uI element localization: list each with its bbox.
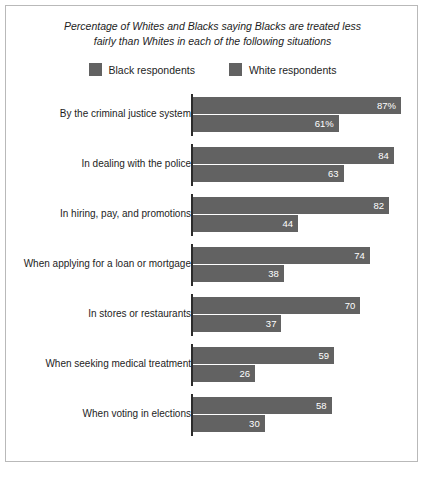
bar[interactable]: 30 (193, 415, 265, 432)
bar-value-label: 87% (377, 101, 396, 111)
bar-group: When voting in elections5830 (6, 394, 418, 444)
bar-group: In stores or restaurants7037 (6, 294, 418, 344)
chart-title-line-2: fairly than Whites in each of the follow… (24, 34, 401, 49)
bar-value-label: 61% (315, 119, 334, 129)
bar-value-label: 30 (249, 419, 260, 429)
bar[interactable]: 82 (193, 197, 389, 214)
bar-value-label: 63 (328, 169, 339, 179)
category-label: When voting in elections (15, 408, 191, 420)
legend-swatch-icon (229, 63, 242, 76)
bar-value-label: 74 (354, 251, 365, 261)
bar[interactable]: 26 (193, 365, 255, 382)
bar-value-label: 26 (240, 369, 251, 379)
bar[interactable]: 74 (193, 247, 370, 264)
legend-label: White respondents (249, 64, 337, 76)
legend-swatch-icon (89, 63, 102, 76)
bar-pair: 7037 (193, 297, 360, 333)
legend-label: Black respondents (109, 64, 195, 76)
chart-frame: Percentage of Whites and Blacks saying B… (5, 5, 418, 462)
category-label: In hiring, pay, and promotions (15, 208, 191, 220)
bar-pair: 8244 (193, 197, 389, 233)
bar[interactable]: 38 (193, 265, 284, 282)
legend-item-black-respondents: Black respondents (89, 63, 195, 76)
bar-group: When seeking medical treatment5926 (6, 344, 418, 394)
bar[interactable]: 37 (193, 315, 281, 332)
category-label: When seeking medical treatment (15, 358, 191, 370)
bar-value-label: 37 (266, 319, 277, 329)
bar[interactable]: 59 (193, 347, 334, 364)
category-label: In stores or restaurants (15, 308, 191, 320)
bar[interactable]: 87% (193, 97, 401, 114)
bar-value-label: 70 (345, 301, 356, 311)
bar[interactable]: 70 (193, 297, 360, 314)
category-label: In dealing with the police (15, 158, 191, 170)
bar-pair: 87%61% (193, 97, 401, 133)
bar-value-label: 84 (378, 151, 389, 161)
bar-value-label: 59 (318, 351, 329, 361)
bar-pair: 7438 (193, 247, 370, 283)
chart-title: Percentage of Whites and Blacks saying B… (24, 19, 401, 49)
bar-group: When applying for a loan or mortgage7438 (6, 244, 418, 294)
bar-group: In dealing with the police8463 (6, 144, 418, 194)
bar[interactable]: 84 (193, 147, 394, 164)
category-label: When applying for a loan or mortgage (15, 258, 191, 270)
bar-value-label: 82 (373, 201, 384, 211)
bar-value-label: 58 (316, 401, 327, 411)
bar-value-label: 38 (268, 269, 279, 279)
bar-group: In hiring, pay, and promotions8244 (6, 194, 418, 244)
bar-pair: 5926 (193, 347, 334, 383)
bar-pair: 5830 (193, 397, 332, 433)
category-label: By the criminal justice system (15, 108, 191, 120)
chart-title-line-1: Percentage of Whites and Blacks saying B… (24, 19, 401, 34)
bar[interactable]: 61% (193, 115, 339, 132)
bar[interactable]: 44 (193, 215, 298, 232)
legend-item-white-respondents: White respondents (229, 63, 337, 76)
bar-pair: 8463 (193, 147, 394, 183)
bar[interactable]: 63 (193, 165, 344, 182)
bar-value-label: 44 (283, 219, 294, 229)
plot-area: By the criminal justice system87%61%In d… (6, 94, 418, 454)
bar-group: By the criminal justice system87%61% (6, 94, 418, 144)
bar[interactable]: 58 (193, 397, 332, 414)
chart-legend: Black respondents White respondents (6, 63, 418, 76)
